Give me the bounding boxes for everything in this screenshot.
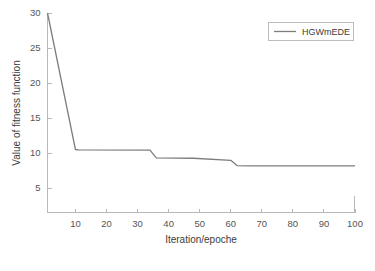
x-tick-label: 10 (70, 218, 81, 229)
x-tick-label: 40 (163, 218, 174, 229)
x-tick-label: 80 (288, 218, 299, 229)
y-tick-label: 15 (30, 112, 41, 123)
fitness-convergence-chart: 51015202530 102030405060708090100 Iterat… (0, 0, 375, 271)
x-tick-label: 50 (194, 218, 205, 229)
x-axis-title: Iteration/epoche (165, 234, 237, 245)
x-tick-label: 100 (347, 218, 363, 229)
y-tick-label: 5 (35, 182, 40, 193)
x-tick-label: 90 (319, 218, 330, 229)
y-axis-title: Value of fitness function (11, 60, 22, 165)
x-tick-label: 60 (225, 218, 236, 229)
x-tick-label: 20 (101, 218, 112, 229)
legend-label-hgwmede: HGWmEDE (302, 27, 350, 37)
y-tick-label: 10 (30, 147, 41, 158)
chart-canvas: 51015202530 102030405060708090100 Iterat… (0, 0, 375, 271)
y-tick-label: 25 (30, 42, 41, 53)
chart-legend[interactable]: HGWmEDE (269, 23, 354, 41)
x-tick-label: 70 (257, 218, 268, 229)
y-tick-label: 30 (30, 7, 41, 18)
y-tick-label: 20 (30, 77, 41, 88)
x-tick-label: 30 (132, 218, 143, 229)
